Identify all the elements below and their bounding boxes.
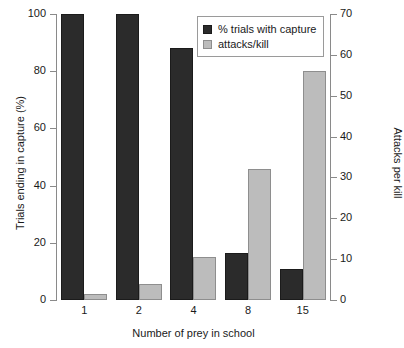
left-tick-mark xyxy=(50,300,56,301)
right-tick-label: 30 xyxy=(340,171,352,182)
bar-group xyxy=(112,14,167,300)
bar xyxy=(170,48,193,300)
legend-swatch-icon xyxy=(203,40,212,49)
right-tick-mark xyxy=(331,14,337,15)
x-axis-label: Number of prey in school xyxy=(57,327,330,339)
right-tick-mark xyxy=(331,259,337,260)
category-label: 1 xyxy=(54,304,114,316)
right-tick-label: 60 xyxy=(340,49,352,60)
category-label: 15 xyxy=(273,304,333,316)
right-tick-label: 50 xyxy=(340,90,352,101)
bar-group xyxy=(57,14,112,300)
bar xyxy=(116,14,139,300)
right-tick-mark xyxy=(331,300,337,301)
bar xyxy=(193,257,216,300)
right-tick-mark xyxy=(331,96,337,97)
right-axis-line xyxy=(330,14,331,301)
left-tick-mark xyxy=(50,14,56,15)
category-label: 4 xyxy=(164,304,224,316)
right-tick-label: 40 xyxy=(340,131,352,142)
legend-label: % trials with capture xyxy=(218,24,316,35)
bar xyxy=(84,294,107,300)
left-tick-mark xyxy=(50,71,56,72)
right-tick-mark xyxy=(331,137,337,138)
left-tick-label: 40 xyxy=(34,180,46,191)
left-tick-label: 60 xyxy=(34,122,46,133)
legend-label: attacks/kill xyxy=(218,39,269,50)
bar xyxy=(225,253,248,300)
legend-swatch-icon xyxy=(203,25,212,34)
left-tick-label: 80 xyxy=(34,65,46,76)
right-tick-mark xyxy=(331,218,337,219)
left-tick-label: 20 xyxy=(34,237,46,248)
left-tick-label: 0 xyxy=(40,294,46,305)
right-tick-mark xyxy=(331,55,337,56)
bar xyxy=(280,269,303,300)
y-axis-label-right: Attacks per kill xyxy=(392,73,404,253)
bar xyxy=(248,169,271,300)
left-tick-mark xyxy=(50,186,56,187)
category-label: 8 xyxy=(218,304,278,316)
legend-item-capture: % trials with capture xyxy=(203,22,316,36)
right-tick-label: 70 xyxy=(340,8,352,19)
legend-item-attacks: attacks/kill xyxy=(203,37,316,51)
left-tick-mark xyxy=(50,243,56,244)
left-tick-label: 100 xyxy=(28,8,46,19)
right-tick-label: 20 xyxy=(340,212,352,223)
bar xyxy=(61,14,84,300)
category-label: 2 xyxy=(109,304,169,316)
right-tick-mark xyxy=(331,177,337,178)
bar xyxy=(303,71,326,300)
bar xyxy=(139,284,162,300)
right-tick-label: 10 xyxy=(340,253,352,264)
left-tick-mark xyxy=(50,128,56,129)
right-tick-label: 0 xyxy=(340,294,346,305)
chart-legend: % trials with capture attacks/kill xyxy=(197,16,324,57)
y-axis-label-left: Trials ending in capture (%) xyxy=(14,73,26,253)
